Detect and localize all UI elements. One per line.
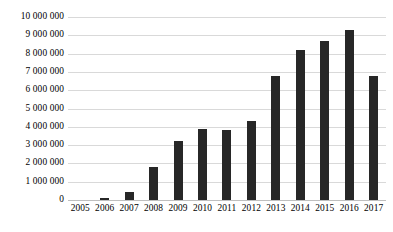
bar-slot (166, 17, 190, 200)
bar (345, 30, 354, 200)
bar-slot (337, 17, 361, 200)
bar-slot (288, 17, 312, 200)
x-axis-tick-label: 2008 (141, 203, 165, 214)
bar-slot (68, 17, 92, 200)
bar-slot (92, 17, 116, 200)
y-axis-tick-labels: 01 000 0002 000 0003 000 0004 000 0005 0… (0, 17, 64, 200)
bar (296, 50, 305, 200)
x-axis-tick-label: 2007 (117, 203, 141, 214)
y-axis-tick-label: 5 000 000 (0, 104, 64, 113)
bar-slot (215, 17, 239, 200)
bar-slot (117, 17, 141, 200)
bar-slot (313, 17, 337, 200)
x-axis-tick-label: 2017 (361, 203, 385, 214)
bar (149, 167, 158, 200)
y-axis-tick-label: 9 000 000 (0, 31, 64, 40)
y-axis-tick-label: 4 000 000 (0, 122, 64, 131)
y-axis-tick-label: 1 000 000 (0, 177, 64, 186)
bar (125, 192, 134, 200)
y-axis-tick-label: 7 000 000 (0, 67, 64, 76)
x-axis-tick-label: 2013 (264, 203, 288, 214)
x-axis-tick-label: 2016 (337, 203, 361, 214)
axis-baseline (68, 200, 386, 201)
y-axis-tick-label: 10 000 000 (0, 12, 64, 21)
bar (271, 76, 280, 200)
x-axis-tick-label: 2011 (215, 203, 239, 214)
bar (198, 129, 207, 200)
x-axis-tick-label: 2014 (288, 203, 312, 214)
x-axis-tick-label: 2005 (68, 203, 92, 214)
bar-slot (361, 17, 385, 200)
bar-slot (264, 17, 288, 200)
bar-chart: 01 000 0002 000 0003 000 0004 000 0005 0… (0, 0, 393, 232)
bar (247, 121, 256, 200)
y-axis-tick-label: 3 000 000 (0, 140, 64, 149)
y-axis-tick-label: 8 000 000 (0, 49, 64, 58)
x-axis-tick-label: 2015 (313, 203, 337, 214)
bar-slot (190, 17, 214, 200)
bar (174, 141, 183, 200)
bar-series (68, 17, 386, 200)
bar-slot (239, 17, 263, 200)
bar (100, 198, 109, 200)
bar-slot (141, 17, 165, 200)
bar (222, 130, 231, 200)
bar (320, 41, 329, 200)
x-axis-tick-label: 2012 (239, 203, 263, 214)
bar (369, 76, 378, 200)
y-axis-tick-label: 0 (0, 195, 64, 204)
x-axis-tick-label: 2006 (92, 203, 116, 214)
x-axis-tick-label: 2010 (190, 203, 214, 214)
x-axis-tick-label: 2009 (166, 203, 190, 214)
y-axis-tick-label: 2 000 000 (0, 159, 64, 168)
x-axis-tick-labels: 2005200620072008200920102011201220132014… (68, 203, 386, 214)
y-axis-tick-label: 6 000 000 (0, 85, 64, 94)
